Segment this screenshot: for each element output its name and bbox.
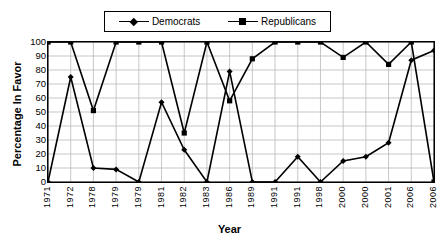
data-point-republicans [341, 55, 346, 60]
gridlines [47, 41, 435, 183]
x-tick-label: 1983 [202, 186, 211, 208]
x-tick-label: 1979 [134, 186, 143, 208]
data-point-democrats [227, 68, 233, 74]
legend-label-democrats: Democrats [152, 17, 200, 27]
y-tick-label: 20 [16, 149, 46, 159]
chart-legend: Democrats Republicans [104, 11, 331, 32]
x-tick-label: 1998 [315, 186, 324, 208]
x-tick-label: 1989 [247, 186, 256, 208]
democrats-diamond-marker-icon [119, 17, 149, 27]
x-tick-label: 1971 [43, 186, 52, 208]
y-tick-label: 80 [16, 65, 46, 75]
x-tick-label: 2006 [406, 186, 415, 208]
x-tick-label: 1991 [270, 186, 279, 208]
data-point-republicans [91, 108, 96, 113]
x-tick-label: 2000 [361, 186, 370, 208]
y-tick-label: 10 [16, 163, 46, 173]
y-tick-label: 100 [16, 37, 46, 47]
y-tick-label: 60 [16, 93, 46, 103]
x-tick-label: 1978 [88, 186, 97, 208]
x-axis-title-text: Year [218, 223, 241, 235]
y-tick-label: 40 [16, 121, 46, 131]
y-axis-tick-labels: 1009080706050403020100 [8, 0, 46, 244]
data-point-democrats [159, 99, 165, 105]
legend-entry-republicans: Republicans [228, 17, 316, 27]
data-point-republicans [250, 56, 255, 61]
plot-svg [47, 41, 435, 183]
x-tick-label: 2006 [429, 186, 438, 208]
x-axis-title: Year [0, 223, 441, 235]
data-point-republicans [182, 130, 187, 135]
republicans-square-marker-icon [228, 17, 258, 27]
y-tick-label: 90 [16, 51, 46, 61]
legend-entry-democrats: Democrats [119, 17, 200, 27]
x-tick-label: 1979 [111, 186, 120, 208]
y-tick-label: 30 [16, 135, 46, 145]
plot-area [47, 41, 435, 183]
x-tick-label: 1981 [157, 186, 166, 208]
x-axis-tick-labels: 1971197219781979197919811982198319861989… [47, 186, 437, 222]
chart-container: Democrats Republicans Percentage In Favo… [0, 0, 441, 244]
footer-caption [0, 238, 441, 244]
legend-label-republicans: Republicans [261, 17, 316, 27]
x-tick-label: 1986 [225, 186, 234, 208]
data-point-democrats [90, 165, 96, 171]
data-point-democrats [68, 74, 74, 80]
data-point-republicans [227, 98, 232, 103]
y-tick-label: 50 [16, 107, 46, 117]
x-tick-label: 2001 [384, 186, 393, 208]
data-point-republicans [386, 62, 391, 67]
x-tick-label: 2000 [338, 186, 347, 208]
x-tick-label: 1972 [66, 186, 75, 208]
x-tick-label: 1991 [293, 186, 302, 208]
x-tick-label: 1982 [179, 186, 188, 208]
y-tick-label: 70 [16, 79, 46, 89]
data-point-democrats [113, 166, 119, 172]
